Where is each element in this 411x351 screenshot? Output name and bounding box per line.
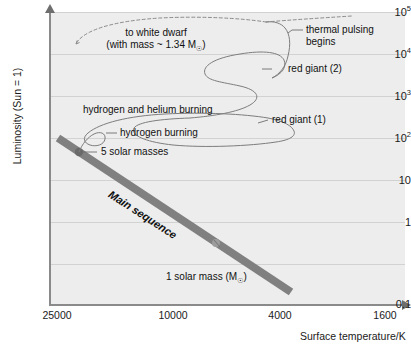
y-tick-1e4-exp: 4 (407, 46, 411, 55)
gridline-1e1 (50, 180, 405, 181)
y-tick-1e3: 103 (365, 91, 411, 102)
annotation-white-dwarf-line1: to white dwarf (96, 27, 216, 39)
y-axis-arrow-icon (45, 4, 55, 13)
gridline-1e-1-upper (50, 264, 405, 265)
gridline-1e4 (50, 54, 405, 55)
annotation-thermal-pulsing: thermal pulsing begins (306, 24, 374, 48)
y-tick-1e4: 104 (365, 49, 411, 60)
y-tick-10: 10 (365, 175, 411, 186)
y-tick-1e2-exp: 2 (407, 130, 411, 139)
x-tick-4000: 4000 (255, 310, 305, 321)
x-tick-1600: 1600 (360, 310, 410, 321)
annotation-red-giant-1: red giant (1) (272, 114, 326, 126)
annotation-hydrogen-helium-burning: hydrogen and helium burning (83, 104, 213, 116)
y-axis-line (49, 12, 51, 305)
y-tick-1e5-exp: 5 (407, 4, 411, 13)
y-axis-title: Luminosity (Sun = 1) (11, 56, 23, 176)
gridline-1e0 (50, 222, 405, 223)
annotation-thermal-pulsing-line1: thermal pulsing (306, 24, 374, 36)
annotation-5-solar-masses: 5 solar masses (101, 146, 168, 158)
y-tick-1: 1 (365, 217, 411, 228)
gridline-1e3 (50, 96, 405, 97)
x-axis-line (49, 304, 405, 306)
annotation-white-dwarf-line2: (with mass ~ 1.34 M☉) (96, 39, 216, 51)
plot-area-background (50, 12, 405, 305)
y-tick-1e3-exp: 3 (407, 88, 411, 97)
annotation-1-solar-mass: 1 solar mass (M☉) (166, 271, 247, 283)
y-tick-1e5: 105 (365, 7, 411, 18)
x-tick-10000: 10000 (143, 310, 203, 321)
x-tick-25000: 25000 (27, 310, 87, 321)
gridline-1e2 (50, 138, 405, 139)
hr-diagram-figure: 105 104 103 102 10 1 0.1 25000 10000 400… (0, 0, 411, 351)
annotation-white-dwarf: to white dwarf (with mass ~ 1.34 M☉) (96, 27, 216, 51)
gridline-1e5 (50, 12, 405, 13)
annotation-hydrogen-burning: hydrogen burning (120, 127, 198, 139)
x-axis-title: Surface temperature/K (300, 330, 406, 342)
annotation-thermal-pulsing-line2: begins (306, 36, 374, 48)
y-tick-1e2: 102 (365, 133, 411, 144)
annotation-red-giant-2: red giant (2) (288, 63, 342, 75)
